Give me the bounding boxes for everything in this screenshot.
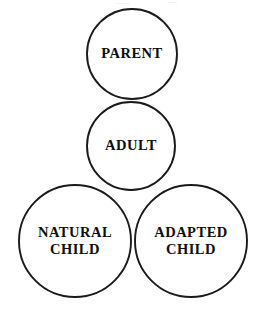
ego-state-circles-svg: [0, 0, 267, 312]
circle-natural-child[interactable]: [19, 185, 131, 297]
ego-state-diagram: PARENT ADULT NATURAL CHILD ADAPTED CHILD: [0, 0, 267, 312]
circle-adapted-child[interactable]: [135, 185, 247, 297]
circle-parent[interactable]: [87, 9, 177, 99]
circle-adult[interactable]: [87, 102, 175, 190]
